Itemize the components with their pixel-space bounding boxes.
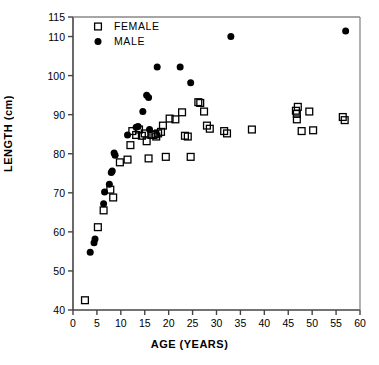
legend-marker-male	[95, 38, 102, 45]
x-tick-label: 45	[282, 317, 294, 329]
x-tick-label: 0	[70, 317, 76, 329]
x-tick-label: 30	[211, 317, 223, 329]
data-point-female	[124, 156, 131, 163]
y-tick-label: 70	[53, 187, 65, 199]
data-point-female	[162, 153, 169, 160]
legend-marker-female	[95, 23, 102, 30]
legend: FEMALEMALE	[95, 20, 160, 47]
data-point-male	[146, 126, 153, 133]
data-point-male	[145, 94, 152, 101]
scatter-plot-figure: LENGTH (cm) AGE (YEARS) 4050607080901001…	[0, 0, 379, 365]
x-axis-label: AGE (YEARS)	[0, 338, 379, 350]
data-point-female	[201, 108, 208, 115]
y-tick-label: 90	[53, 109, 65, 121]
y-tick-label: 80	[53, 148, 65, 160]
data-point-male	[227, 33, 234, 40]
x-tick-label: 50	[306, 317, 318, 329]
data-point-male	[101, 189, 108, 196]
y-tick-label: 110	[48, 31, 65, 43]
x-tick-label: 60	[354, 317, 366, 329]
data-point-male	[154, 64, 161, 71]
data-point-male	[124, 131, 131, 138]
legend-label-female: FEMALE	[114, 20, 160, 32]
data-point-female	[298, 128, 305, 135]
x-tick-label: 20	[163, 317, 175, 329]
data-point-female	[310, 127, 317, 134]
x-tick-label: 55	[330, 317, 342, 329]
data-point-male	[92, 235, 99, 242]
data-point-male	[112, 152, 119, 159]
legend-label-male: MALE	[114, 35, 145, 47]
data-point-female	[127, 142, 134, 149]
data-point-male	[342, 28, 349, 35]
x-tick-label: 15	[139, 317, 151, 329]
y-tick-label: 40	[53, 304, 65, 316]
plot-canvas: 4050607080901001101150510152025303540455…	[0, 0, 379, 365]
x-tick-label: 10	[115, 317, 127, 329]
data-point-male	[100, 200, 107, 207]
y-tick-label: 50	[53, 265, 65, 277]
data-point-female	[145, 155, 152, 162]
data-point-male	[187, 79, 194, 86]
series-female	[82, 99, 349, 304]
data-point-female	[116, 159, 123, 166]
data-point-male	[177, 64, 184, 71]
data-point-male	[106, 181, 113, 188]
x-tick-label: 35	[235, 317, 247, 329]
x-tick-label: 40	[258, 317, 270, 329]
data-point-female	[187, 153, 194, 160]
y-tick-label: 100	[47, 70, 65, 82]
x-tick-label: 5	[94, 317, 100, 329]
data-point-male	[109, 167, 116, 174]
data-point-female	[82, 297, 89, 304]
data-point-female	[179, 109, 186, 116]
y-tick-label: 115	[48, 11, 65, 23]
y-tick-label: 60	[53, 226, 65, 238]
x-tick-label: 25	[187, 317, 199, 329]
data-point-female	[100, 207, 107, 214]
data-point-male	[139, 108, 146, 115]
data-point-female	[248, 126, 255, 133]
series-male	[87, 28, 349, 256]
data-point-female	[306, 108, 313, 115]
y-axis-label: LENGTH (cm)	[2, 95, 28, 172]
data-point-female	[110, 194, 117, 201]
data-point-female	[94, 224, 101, 231]
data-point-male	[87, 249, 94, 256]
data-point-male	[135, 123, 142, 130]
